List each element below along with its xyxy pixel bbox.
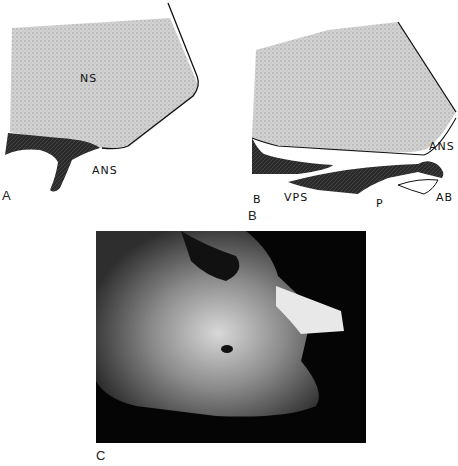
annotation-vps: VPS	[284, 191, 308, 204]
annotation-ns: NS	[80, 72, 97, 85]
annotation-p: P	[376, 197, 384, 210]
panel-label-a: A	[2, 188, 11, 203]
skull-photo	[96, 231, 366, 443]
panel-a: NS ANS A	[0, 0, 230, 200]
panel-b-drawing	[228, 0, 458, 200]
panel-c-photo	[96, 231, 366, 443]
panel-label-b: B	[248, 208, 257, 223]
panel-label-c: C	[96, 448, 105, 463]
annotation-ans: ANS	[92, 164, 118, 177]
annotation-ab: AB	[436, 191, 453, 204]
annotation-b: B	[253, 193, 262, 206]
annotation-ans: ANS	[429, 140, 455, 153]
panel-b: ANS B VPS P AB	[228, 0, 458, 205]
